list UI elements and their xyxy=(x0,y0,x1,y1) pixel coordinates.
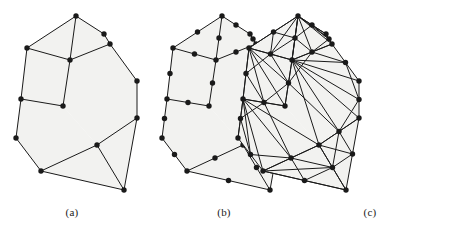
mesh-node xyxy=(271,29,276,34)
mesh-node xyxy=(162,116,167,121)
mesh-node xyxy=(121,187,126,192)
mesh-node xyxy=(286,80,291,85)
mesh-node xyxy=(213,57,218,62)
mesh-node xyxy=(326,36,331,41)
mesh-node xyxy=(250,36,255,41)
mesh-node xyxy=(330,165,335,170)
mesh-node xyxy=(309,22,314,27)
mesh-node xyxy=(60,103,65,108)
mesh-figure-svg xyxy=(0,0,450,231)
mesh-node xyxy=(309,49,314,54)
mesh-node xyxy=(206,103,211,108)
mesh-node xyxy=(316,142,321,147)
figure-container: (a) (b) (c) xyxy=(0,0,450,231)
mesh-node xyxy=(134,78,139,83)
mesh-node xyxy=(185,100,190,105)
caption-panel-b: (b) xyxy=(204,206,244,218)
mesh-node xyxy=(289,57,294,62)
mesh-node xyxy=(329,41,334,46)
panel-a-faces xyxy=(16,16,137,190)
panel-a xyxy=(13,13,139,192)
mesh-node xyxy=(233,22,238,27)
caption-panel-c: (c) xyxy=(350,206,390,218)
mesh-node xyxy=(184,168,189,173)
mesh-node xyxy=(167,71,172,76)
mesh-node xyxy=(282,103,287,108)
mesh-node xyxy=(260,168,265,173)
mesh-node xyxy=(159,135,164,140)
mesh-node xyxy=(288,155,293,160)
mesh-node xyxy=(18,96,23,101)
mesh-node xyxy=(94,142,99,147)
mesh-node xyxy=(101,31,106,36)
mesh-node xyxy=(216,35,221,40)
mesh-node xyxy=(246,45,251,50)
mesh-node xyxy=(295,13,300,18)
mesh-node xyxy=(356,78,361,83)
mesh-node xyxy=(238,116,243,121)
mesh-node xyxy=(219,13,224,18)
mesh-node xyxy=(343,187,348,192)
mesh-node xyxy=(226,178,231,183)
mesh-node xyxy=(24,45,29,50)
mesh-node xyxy=(172,152,177,157)
mesh-node xyxy=(170,45,175,50)
mesh-node xyxy=(356,115,361,120)
mesh-node xyxy=(195,29,200,34)
mesh-node xyxy=(164,96,169,101)
mesh-node xyxy=(343,60,348,65)
mesh-node xyxy=(268,51,273,56)
mesh-node xyxy=(302,178,307,183)
mesh-node xyxy=(247,31,252,36)
mesh-node xyxy=(261,100,266,105)
mesh-node xyxy=(248,152,253,157)
mesh-node xyxy=(233,49,238,54)
mesh-node xyxy=(134,115,139,120)
mesh-node xyxy=(356,97,361,102)
mesh-node xyxy=(235,135,240,140)
mesh-node xyxy=(192,51,197,56)
mesh-node xyxy=(38,168,43,173)
mesh-node xyxy=(210,80,215,85)
mesh-node xyxy=(336,129,341,134)
caption-panel-a: (a) xyxy=(52,206,92,218)
mesh-node xyxy=(73,13,78,18)
mesh-node xyxy=(267,187,272,192)
mesh-node xyxy=(292,35,297,40)
mesh-node xyxy=(350,151,355,156)
mesh-node xyxy=(13,135,18,140)
mesh-node xyxy=(107,41,112,46)
mesh-node xyxy=(323,31,328,36)
mesh-node xyxy=(67,57,72,62)
mesh-node xyxy=(240,96,245,101)
mesh-node xyxy=(243,71,248,76)
mesh-node xyxy=(212,155,217,160)
